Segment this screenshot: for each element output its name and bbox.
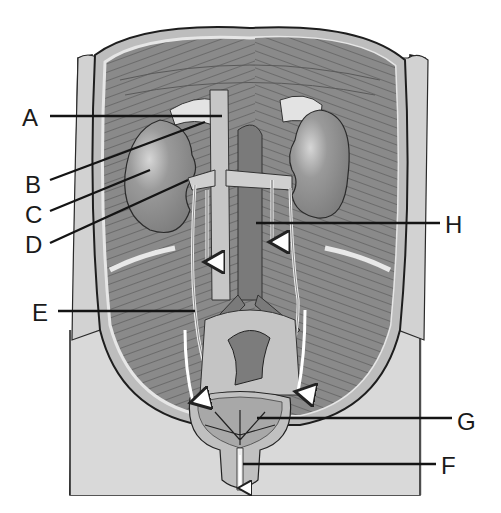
abdominal-aorta: [238, 125, 262, 300]
label-c: C: [25, 201, 42, 228]
right-kidney: [290, 110, 350, 218]
inferior-vena-cava: [210, 90, 230, 300]
label-d: D: [25, 231, 42, 258]
label-f: F: [441, 452, 456, 479]
label-h: H: [445, 211, 462, 238]
label-e: E: [32, 299, 48, 326]
label-a: A: [22, 104, 38, 131]
label-g: G: [457, 408, 476, 435]
label-b: B: [25, 171, 41, 198]
urinary-system-diagram: A B C D E H G F: [0, 0, 501, 513]
